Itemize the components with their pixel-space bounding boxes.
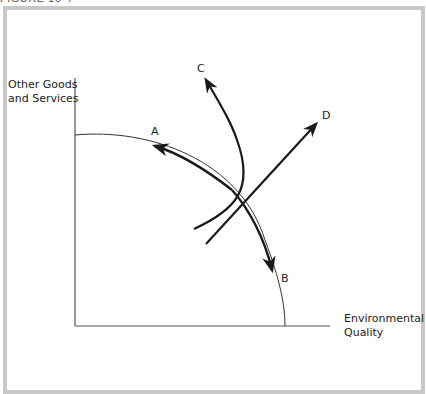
arrow-to-c [194,80,244,229]
arrow-to-b [232,190,272,270]
point-label-c: C [197,62,205,76]
y-axis-label: Other Goods and Services [8,78,79,106]
arrow-to-a [155,146,232,190]
point-label-d: D [322,109,330,123]
ppf-curve [75,134,285,326]
point-label-a: A [151,125,159,139]
y-axis-label-line2: and Services [8,92,79,106]
x-axis-label: Environmental Quality [344,312,424,340]
y-axis-label-line1: Other Goods [8,78,79,92]
x-axis-label-line2: Quality [344,326,424,340]
point-label-b: B [281,272,289,286]
x-axis-label-line1: Environmental [344,312,424,326]
